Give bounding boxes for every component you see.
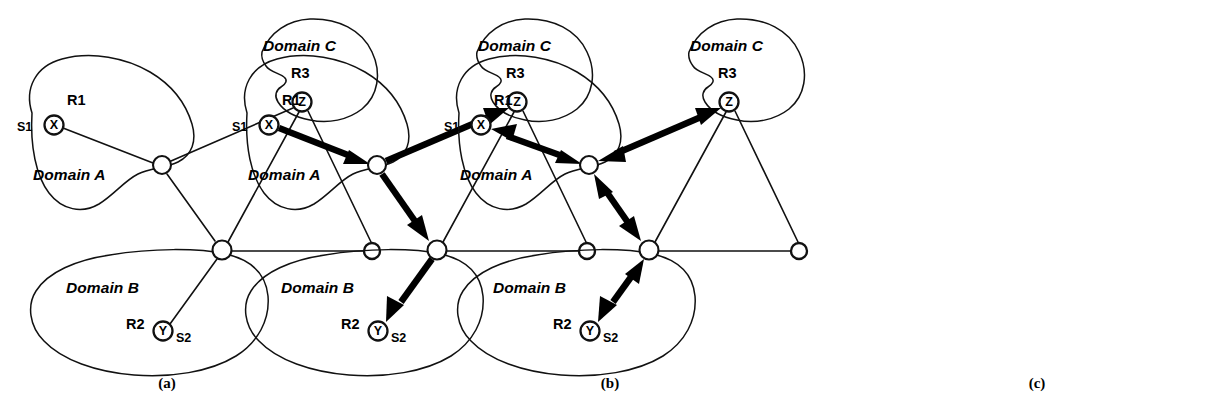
s2-label: S2 — [391, 331, 406, 345]
node-x-label: X — [265, 118, 274, 132]
flow-hubb-y — [613, 277, 631, 302]
s2-label: S2 — [603, 331, 618, 345]
domain-b-label: Domain B — [66, 279, 139, 296]
r1-label: R1 — [67, 92, 86, 108]
node-huba — [153, 156, 171, 174]
r2-label: R2 — [341, 316, 360, 332]
arrowhead-z-in — [695, 108, 721, 125]
panel-c-canvas: X Y Z Domain A Domain B Domain C R1 R2 R… — [427, 0, 837, 406]
node-y-label: Y — [159, 324, 168, 338]
figure-root: X Y Z Domain A Domain B Domain C R1 R2 R… — [0, 0, 1220, 406]
r2-label: R2 — [553, 316, 572, 332]
arrowhead-huba-from-z — [598, 146, 626, 162]
link-z-east — [735, 111, 798, 242]
panel-a-caption: (a) — [158, 375, 176, 392]
r2-label: R2 — [126, 316, 145, 332]
r1-label: R1 — [494, 92, 513, 108]
flow-huba-hubb — [606, 191, 629, 224]
domain-a-label: Domain A — [33, 166, 106, 183]
node-east — [791, 243, 807, 259]
node-x-label: X — [477, 118, 486, 132]
r3-label: R3 — [718, 65, 737, 81]
link-huba-hubb — [167, 174, 215, 241]
s1-label: S1 — [444, 120, 459, 134]
node-y-label: Y — [374, 324, 383, 338]
panel-c: X Y Z Domain A Domain B Domain C R1 R2 R… — [427, 0, 837, 406]
panel-c-caption: (c) — [1029, 375, 1046, 392]
domain-a-label: Domain A — [460, 166, 533, 183]
node-x-label: X — [50, 118, 59, 132]
node-huba — [580, 156, 598, 174]
flow-x-huba — [279, 128, 353, 157]
s1-label: S1 — [232, 120, 247, 134]
flow-huba-z — [615, 117, 701, 154]
domain-c-blob — [689, 19, 805, 122]
node-y-label: Y — [586, 324, 595, 338]
flow-x-huba — [507, 136, 565, 157]
node-huba — [368, 156, 386, 174]
link-x-huba — [63, 128, 153, 163]
node-hubb — [640, 241, 659, 260]
domain-a-label: Domain A — [248, 166, 321, 183]
link-hubb-y — [170, 259, 217, 324]
r1-label: R1 — [282, 92, 301, 108]
node-z-label: Z — [725, 95, 733, 109]
flow-huba-hubb — [382, 174, 417, 224]
s2-label: S2 — [176, 331, 191, 345]
domain-b-blob — [458, 250, 696, 376]
s1-label: S1 — [17, 120, 32, 134]
domain-b-label: Domain B — [493, 279, 566, 296]
domain-b-label: Domain B — [281, 279, 354, 296]
domain-c-label: Domain C — [690, 37, 764, 54]
